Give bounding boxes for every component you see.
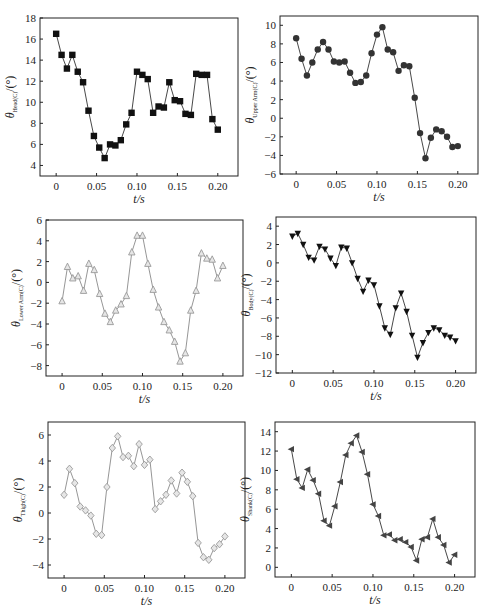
x-tick-label: 0 <box>53 180 59 192</box>
x-tick-label: 0.20 <box>448 178 468 190</box>
data-point-marker <box>75 272 81 278</box>
plot-frame <box>275 422 475 577</box>
data-point-marker <box>376 303 382 309</box>
data-point-marker <box>412 95 418 101</box>
y-tick-label: 14 <box>260 426 272 438</box>
data-point-marker <box>91 133 97 139</box>
x-tick-label: 0.05 <box>93 380 113 392</box>
data-point-marker <box>353 432 359 438</box>
x-tick-label: 0.20 <box>446 377 466 389</box>
data-point-marker <box>295 231 301 237</box>
data-point-marker <box>86 260 92 266</box>
y-tick-label: −6 <box>30 339 42 351</box>
y-tick-label: −4 <box>260 294 272 306</box>
y-tick-label: 4 <box>271 75 277 87</box>
data-point-marker <box>155 304 161 310</box>
y-tick-label: −2 <box>32 533 44 545</box>
data-point-marker <box>325 46 331 52</box>
data-point-marker <box>304 72 310 78</box>
plot-frame <box>40 18 238 176</box>
x-tick-label: 0.05 <box>323 581 343 593</box>
y-tick-label: 4 <box>31 159 37 171</box>
data-point-marker <box>420 340 426 346</box>
data-point-marker <box>298 485 304 491</box>
data-point-marker <box>374 31 380 37</box>
plot-frame <box>280 16 478 174</box>
y-tick-label: −8 <box>260 330 272 342</box>
x-tick-label: 0.10 <box>367 178 387 190</box>
data-point-marker <box>401 62 407 68</box>
y-tick-label: 2 <box>39 481 45 493</box>
y-tick-label: −8 <box>30 360 42 372</box>
data-point-marker <box>136 440 142 447</box>
data-point-marker <box>215 126 221 132</box>
x-tick-label: 0.20 <box>445 581 465 593</box>
data-point-marker <box>390 49 396 55</box>
data-point-marker <box>424 534 430 540</box>
data-point-marker <box>298 56 304 62</box>
y-tick-label: −4 <box>30 318 42 330</box>
data-point-marker <box>371 282 377 288</box>
data-point-marker <box>333 263 339 269</box>
data-point-marker <box>428 135 434 141</box>
data-point-marker <box>109 444 115 451</box>
data-point-marker <box>131 463 137 470</box>
data-point-marker <box>128 110 134 116</box>
y-tick-label: 16 <box>25 33 37 45</box>
data-point-marker <box>320 39 326 45</box>
data-point-marker <box>387 332 393 338</box>
x-tick-label: 0.10 <box>364 377 384 389</box>
y-tick-label: 0 <box>266 561 272 573</box>
y-tick-label: 6 <box>271 56 277 68</box>
x-tick-label: 0.20 <box>215 582 235 594</box>
data-point-marker <box>347 69 353 75</box>
y-tick-label: 10 <box>260 464 272 476</box>
y-tick-label: −4 <box>264 149 276 161</box>
data-point-marker <box>344 246 350 252</box>
series-line <box>64 436 225 560</box>
data-point-marker <box>331 58 337 64</box>
x-tick-label: 0.10 <box>133 380 153 392</box>
data-point-marker <box>425 330 431 336</box>
y-tick-label: 12 <box>260 445 271 457</box>
chart-upper-arm-angle: −6−4−2024681000.050.100.150.20t/sθUpper … <box>243 16 478 204</box>
data-point-marker <box>451 552 457 558</box>
y-tick-label: 8 <box>31 117 37 129</box>
data-point-marker <box>365 278 371 284</box>
data-point-marker <box>139 232 145 238</box>
data-point-marker <box>449 144 455 150</box>
y-tick-label: 8 <box>271 38 277 50</box>
data-point-marker <box>209 116 215 122</box>
y-tick-label: 0 <box>271 112 277 124</box>
data-point-marker <box>120 453 126 460</box>
x-axis-label: t/s <box>141 594 153 608</box>
y-tick-label: −12 <box>255 367 272 379</box>
chart-head-angle: 468101214161800.050.100.150.20t/sθHead(C… <box>3 12 238 206</box>
data-point-marker <box>322 246 328 252</box>
data-point-marker <box>455 143 461 149</box>
data-point-marker <box>422 155 428 161</box>
data-point-marker <box>75 69 81 75</box>
data-point-marker <box>402 539 408 545</box>
data-point-marker <box>123 121 129 127</box>
data-point-marker <box>211 544 217 551</box>
x-tick-label: 0 <box>59 380 65 392</box>
y-axis-label: θUpper Arm(C)/(°) <box>243 66 259 123</box>
plot-frame <box>48 422 245 578</box>
y-tick-label: 4 <box>267 220 273 232</box>
data-point-marker <box>444 134 450 140</box>
data-point-marker <box>96 290 102 296</box>
data-point-marker <box>347 440 353 446</box>
data-point-marker <box>198 250 204 256</box>
series-line <box>291 436 454 563</box>
data-point-marker <box>440 542 446 548</box>
data-point-marker <box>341 58 347 64</box>
y-tick-label: 8 <box>266 484 272 496</box>
data-point-marker <box>66 465 72 472</box>
data-point-marker <box>179 469 185 476</box>
x-tick-label: 0.15 <box>405 377 425 389</box>
y-tick-label: 2 <box>271 94 277 106</box>
data-point-marker <box>161 104 167 110</box>
data-point-marker <box>96 144 102 150</box>
data-point-marker <box>53 31 59 37</box>
